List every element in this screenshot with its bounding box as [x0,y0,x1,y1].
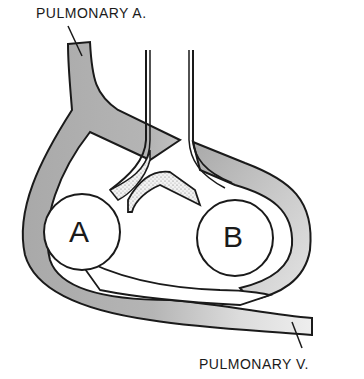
chamber-b-label: B [223,220,243,254]
pulmonary-circulation-diagram [0,0,364,379]
pulmonary-vein-label: PULMONARY V. [199,356,309,372]
pulmonary-artery-label: PULMONARY A. [36,5,147,21]
diagram: PULMONARY A. PULMONARY V. A B [0,0,364,379]
chamber-a-label: A [69,215,89,249]
